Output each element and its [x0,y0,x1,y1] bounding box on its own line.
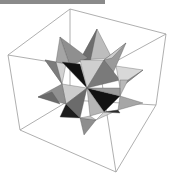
polyhedron-diagram [0,0,170,178]
box-edge [156,34,166,105]
polyhedron-face [80,118,96,135]
polyhedron-face [120,80,128,96]
box-edge [116,105,156,172]
stellated-polyhedron [38,29,143,135]
polyhedron-face [118,96,143,110]
box-edge [8,55,20,130]
box-edge [20,130,116,172]
box-edge [100,70,116,172]
box-edge [70,9,166,34]
bounding-box [8,9,166,172]
